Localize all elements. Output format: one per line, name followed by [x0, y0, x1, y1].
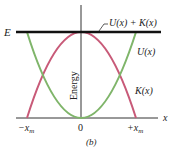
- tick-pos-xm: +xm: [127, 122, 143, 135]
- energy-diagram: E U(x) + K(x) U(x) K(x) Energy x −xm 0 +…: [0, 0, 174, 155]
- energy-level-label: E: [3, 26, 11, 38]
- total-energy-label: U(x) + K(x): [109, 17, 158, 29]
- x-axis-label: x: [162, 112, 168, 123]
- total-energy-leader: [99, 24, 108, 31]
- figure-caption: (b): [86, 137, 97, 147]
- tick-zero: 0: [78, 122, 83, 133]
- y-axis-label: Energy: [68, 71, 79, 100]
- tick-neg-xm: −xm: [18, 122, 34, 135]
- kinetic-energy-label: K(x): [134, 85, 153, 97]
- potential-energy-label: U(x): [137, 46, 156, 58]
